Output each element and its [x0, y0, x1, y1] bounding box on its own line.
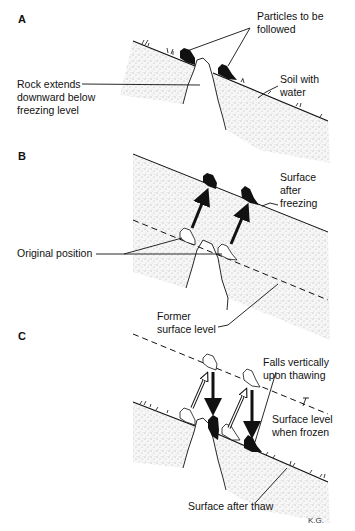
- leader-surface-freezing-b: [262, 203, 278, 206]
- panel-letter-b: B: [18, 150, 26, 162]
- label-falls-vertically: Falls vertically upon thawing: [263, 356, 329, 382]
- label-surface-level-when-frozen: Surface level when frozen: [272, 413, 333, 439]
- label-rock-extends: Rock extends downward below freezing lev…: [17, 78, 95, 117]
- heaved-particle-2-c: [243, 369, 260, 387]
- panel-letter-c: C: [18, 330, 26, 342]
- panel-letter-a: A: [18, 13, 26, 25]
- label-original-position: Original position: [17, 247, 92, 260]
- heaved-particle-1-c: [203, 354, 217, 370]
- label-surface-after-freezing: Surface after freezing: [280, 171, 317, 210]
- leader-surface-frozen-c: [303, 398, 309, 406]
- label-surface-after-thaw: Surface after thaw: [188, 500, 273, 513]
- artist-signature: K.G.: [308, 516, 324, 525]
- label-soil-with-water: Soil with water: [280, 73, 319, 99]
- label-former-surface-level: Former surface level: [157, 310, 216, 336]
- label-particles-to-be-followed: Particles to be followed: [257, 10, 324, 36]
